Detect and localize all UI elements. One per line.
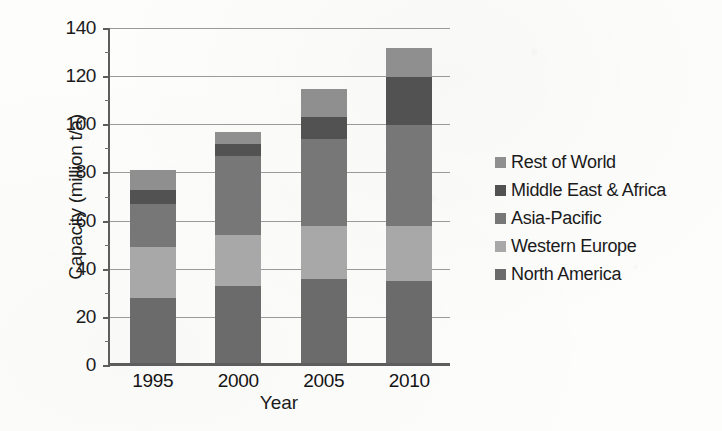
- legend-item[interactable]: Western Europe: [495, 232, 715, 260]
- y-axis-minor-tick: [105, 341, 110, 342]
- bar-segment[interactable]: [130, 170, 176, 189]
- legend-item[interactable]: Middle East & Africa: [495, 176, 715, 204]
- legend-item-label: Western Europe: [511, 236, 637, 257]
- bar-segment[interactable]: [301, 279, 347, 363]
- bar-segment[interactable]: [301, 139, 347, 226]
- y-axis-tick-label: 40: [36, 258, 96, 280]
- legend-item-label: North America: [511, 264, 621, 285]
- y-axis-tick-mark: [103, 172, 110, 174]
- y-axis-tick-label: 80: [36, 161, 96, 183]
- y-axis-minor-tick: [105, 148, 110, 149]
- bar-segment[interactable]: [215, 144, 261, 156]
- bar-segment[interactable]: [301, 117, 347, 139]
- y-axis-tick-mark: [103, 28, 110, 30]
- bar-segment[interactable]: [301, 226, 347, 279]
- y-axis-tick-label: 20: [36, 306, 96, 328]
- bar-segment[interactable]: [386, 281, 432, 363]
- bar-segment[interactable]: [386, 77, 432, 125]
- x-axis-tick-label: 2010: [354, 370, 464, 392]
- legend-swatch-icon: [495, 241, 506, 252]
- legend-item-label: Asia-Pacific: [511, 208, 601, 229]
- y-axis-minor-tick: [105, 52, 110, 53]
- legend-swatch-icon: [495, 185, 506, 196]
- y-axis-tick-label: 140: [36, 17, 96, 39]
- y-axis-tick-mark: [103, 269, 110, 271]
- legend-swatch-icon: [495, 269, 506, 280]
- y-axis-minor-tick: [105, 245, 110, 246]
- plot-area: 1995200020052010: [108, 28, 450, 365]
- legend-item[interactable]: Asia-Pacific: [495, 204, 715, 232]
- bar-segment[interactable]: [130, 247, 176, 298]
- legend-swatch-icon: [495, 213, 506, 224]
- x-axis-title: Year: [108, 392, 450, 414]
- bar-segment[interactable]: [301, 89, 347, 118]
- y-axis-tick-mark: [103, 221, 110, 223]
- y-axis-minor-tick: [105, 100, 110, 101]
- bar-segment[interactable]: [386, 48, 432, 77]
- bar-segment[interactable]: [386, 125, 432, 226]
- y-axis-tick-label: 0: [36, 354, 96, 376]
- bar-segment[interactable]: [130, 190, 176, 204]
- bar-segment[interactable]: [215, 156, 261, 235]
- gridline: [110, 365, 450, 366]
- y-axis-tick-mark: [103, 317, 110, 319]
- y-axis-tick-label: 120: [36, 65, 96, 87]
- bar-segment[interactable]: [215, 132, 261, 144]
- legend-item-label: Middle East & Africa: [511, 180, 666, 201]
- legend-item[interactable]: North America: [495, 260, 715, 288]
- chart-legend: Rest of WorldMiddle East & AfricaAsia-Pa…: [495, 148, 715, 288]
- y-axis-minor-tick: [105, 293, 110, 294]
- bar-segment[interactable]: [130, 204, 176, 247]
- y-axis-minor-tick: [105, 197, 110, 198]
- bar-segment[interactable]: [130, 298, 176, 363]
- y-axis-tick-label: 100: [36, 113, 96, 135]
- bar-segment[interactable]: [215, 235, 261, 286]
- y-axis-tick-mark: [103, 76, 110, 78]
- legend-item[interactable]: Rest of World: [495, 148, 715, 176]
- y-axis-tick-mark: [103, 365, 110, 367]
- legend-item-label: Rest of World: [511, 152, 616, 173]
- bar-segment[interactable]: [215, 286, 261, 363]
- y-axis-tick-mark: [103, 124, 110, 126]
- y-axis-tick-label: 60: [36, 210, 96, 232]
- gridline: [110, 28, 450, 29]
- stacked-bar-chart: Capacity (million t/a) 02040608010012014…: [0, 0, 722, 431]
- bar-segment[interactable]: [386, 226, 432, 281]
- legend-swatch-icon: [495, 157, 506, 168]
